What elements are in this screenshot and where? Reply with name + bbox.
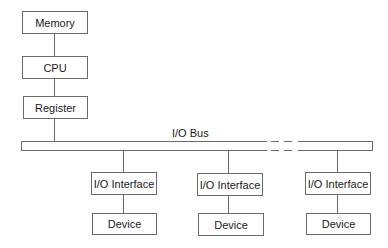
cpu-label: CPU: [43, 62, 66, 74]
io-interface-label: I/O Interface: [94, 178, 155, 190]
interface2-device2-connector: [228, 196, 229, 213]
device-box-2: Device: [198, 213, 264, 236]
bus-interface1-connector: [123, 151, 124, 172]
register-label: Register: [35, 102, 76, 114]
register-box: Register: [23, 96, 88, 119]
bus-bottom-right: [298, 150, 373, 151]
bus-gap-dash: [271, 150, 279, 151]
cpu-register-connector: [54, 79, 55, 96]
bus-top-right: [298, 141, 373, 142]
memory-label: Memory: [35, 17, 75, 29]
io-bus-label: I/O Bus: [172, 127, 209, 139]
io-interface-box-3: I/O Interface: [305, 172, 371, 195]
io-interface-box-2: I/O Interface: [197, 173, 263, 196]
io-interface-label: I/O Interface: [308, 178, 369, 190]
bus-interface3-connector: [337, 151, 338, 172]
interface3-device3-connector: [337, 195, 338, 213]
io-interface-box-1: I/O Interface: [91, 172, 157, 195]
bus-bottom-left: [21, 150, 267, 151]
device-label: Device: [108, 218, 142, 230]
device-label: Device: [214, 219, 248, 231]
memory-cpu-connector: [54, 34, 55, 56]
device-label: Device: [322, 218, 356, 230]
bus-interface2-connector: [228, 151, 229, 173]
cpu-box: CPU: [22, 56, 88, 79]
bus-gap-dash: [284, 141, 292, 142]
device-box-3: Device: [306, 213, 371, 235]
register-bus-connector: [54, 119, 55, 141]
memory-box: Memory: [22, 11, 88, 34]
device-box-1: Device: [92, 213, 157, 235]
io-interface-label: I/O Interface: [200, 179, 261, 191]
bus-gap-dash: [271, 141, 279, 142]
interface1-device1-connector: [123, 195, 124, 213]
bus-gap-dash: [284, 150, 292, 151]
bus-top-left: [21, 141, 267, 142]
